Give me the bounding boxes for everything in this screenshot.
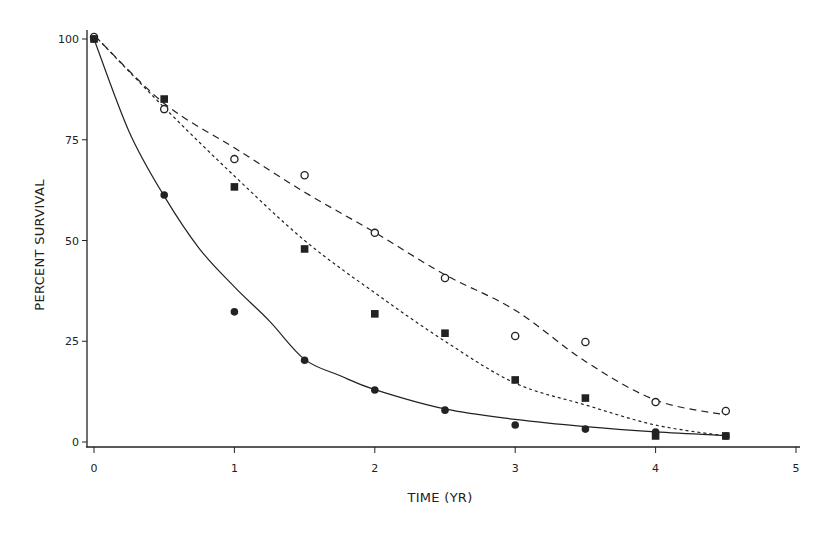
x-tick-label: 1 bbox=[231, 462, 238, 475]
open-circle-marker bbox=[512, 332, 519, 339]
survival-chart: 0123450255075100 TIME (YR) PERCENT SURVI… bbox=[0, 0, 824, 533]
open-circle-marker bbox=[441, 274, 448, 281]
open-circle-marker bbox=[161, 106, 168, 113]
y-tick-label: 25 bbox=[65, 335, 79, 348]
filled-square-marker bbox=[301, 245, 309, 253]
y-tick-label: 100 bbox=[58, 33, 79, 46]
filled-square-marker bbox=[231, 183, 239, 191]
open-circle-marker bbox=[231, 155, 238, 162]
filled-circle-marker bbox=[441, 406, 449, 414]
y-tick-label: 50 bbox=[65, 235, 79, 248]
filled-circle-marker bbox=[652, 428, 660, 436]
open-circle-marker bbox=[722, 407, 729, 414]
filled-circle-marker bbox=[160, 191, 168, 199]
y-tick-label: 0 bbox=[72, 436, 79, 449]
filled-circle-marker bbox=[582, 425, 590, 433]
filled-circle-marker bbox=[90, 35, 98, 43]
open-circle-marker bbox=[301, 172, 308, 179]
filled-square-marker bbox=[441, 329, 449, 337]
filled-circles-fit-line bbox=[94, 39, 726, 436]
open-circle-marker bbox=[652, 399, 659, 406]
axes: 0123450255075100 bbox=[58, 30, 800, 475]
filled-circle-marker bbox=[301, 356, 309, 364]
data-markers bbox=[90, 33, 729, 439]
filled-circle-marker bbox=[231, 308, 239, 316]
x-tick-label: 0 bbox=[91, 462, 98, 475]
x-tick-label: 2 bbox=[371, 462, 378, 475]
filled-square-marker bbox=[371, 310, 379, 318]
x-tick-label: 4 bbox=[652, 462, 659, 475]
y-tick-label: 75 bbox=[65, 134, 79, 147]
x-tick-label: 5 bbox=[793, 462, 800, 475]
filled-circle-marker bbox=[722, 432, 730, 440]
open-circle-marker bbox=[371, 229, 378, 236]
filled-circle-marker bbox=[371, 386, 379, 394]
filled-square-marker bbox=[160, 95, 168, 103]
filled-square-marker bbox=[511, 376, 519, 384]
open-circle-marker bbox=[582, 338, 589, 345]
x-axis-label: TIME (YR) bbox=[406, 490, 472, 505]
open-circles-fit-line bbox=[94, 35, 726, 415]
fitted-curves bbox=[94, 35, 726, 436]
x-tick-label: 3 bbox=[512, 462, 519, 475]
filled-circle-marker bbox=[511, 421, 519, 429]
filled-square-marker bbox=[582, 394, 590, 402]
y-axis-label: PERCENT SURVIVAL bbox=[32, 179, 47, 311]
filled-squares-fit-line bbox=[94, 35, 726, 436]
